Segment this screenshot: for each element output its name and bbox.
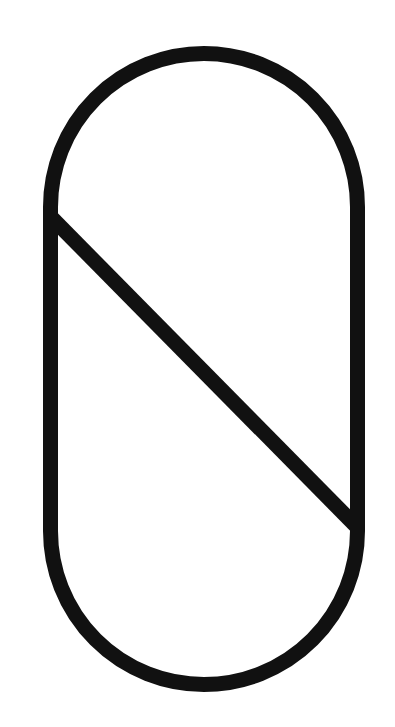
slash-line [36, 202, 368, 538]
canvas [0, 0, 395, 727]
pill-slash-icon [0, 0, 395, 727]
